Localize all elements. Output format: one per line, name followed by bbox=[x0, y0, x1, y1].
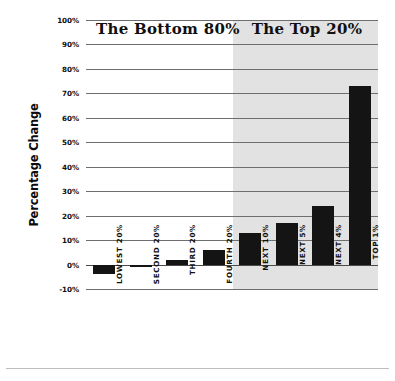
y-tick-label--10: -10% bbox=[35, 285, 79, 294]
y-tick-label-90: 90% bbox=[35, 40, 79, 49]
x-tick-label-lowest-20: LOWEST 20% bbox=[112, 224, 128, 296]
y-tick-label-20: 20% bbox=[35, 212, 79, 221]
y-tick-label-70: 70% bbox=[35, 89, 79, 98]
y-tick-label-60: 60% bbox=[35, 114, 79, 123]
y-tick-label-0: 0% bbox=[35, 261, 79, 270]
x-tick-label-third-20: THIRD 20% bbox=[185, 224, 201, 296]
y-tick-label-80: 80% bbox=[35, 65, 79, 74]
footer-divider bbox=[6, 368, 389, 369]
x-tick-label-next-5: NEXT 5% bbox=[295, 224, 311, 296]
x-tick-label-next-4: NEXT 4% bbox=[331, 224, 347, 296]
y-tick-label-50: 50% bbox=[35, 138, 79, 147]
region-caption-bottom-80: The Bottom 80% bbox=[96, 20, 236, 38]
y-tick-label-100: 100% bbox=[35, 16, 79, 25]
x-tick-label-next-10: NEXT 10% bbox=[258, 224, 274, 296]
x-tick-label-second-20: SECOND 20% bbox=[149, 224, 165, 296]
x-tick-label-fourth-20: FOURTH 20% bbox=[222, 224, 238, 296]
x-tick-label-top-1: TOP 1% bbox=[368, 224, 384, 296]
region-caption-top-20: The Top 20% bbox=[242, 20, 372, 38]
x-axis-tick-labels: LOWEST 20%SECOND 20%THIRD 20%FOURTH 20%N… bbox=[0, 296, 395, 374]
y-tick-label-40: 40% bbox=[35, 163, 79, 172]
y-tick-label-30: 30% bbox=[35, 187, 79, 196]
chart-container: Percentage Change 100%90%80%70%60%50%40%… bbox=[0, 0, 395, 381]
y-tick-label-10: 10% bbox=[35, 236, 79, 245]
